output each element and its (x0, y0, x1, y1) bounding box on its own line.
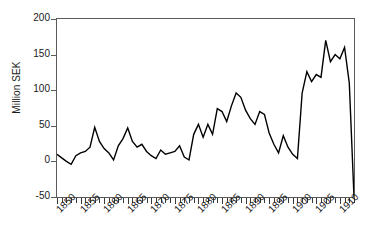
y-tick-label: 100 (0, 83, 50, 94)
chart-container: Million SEK 200150100500-50 185018551860… (0, 0, 372, 243)
y-tick-label: -50 (0, 190, 50, 201)
y-tick-label: 200 (0, 12, 50, 23)
y-tick-label: 0 (0, 154, 50, 165)
data-line-series (57, 19, 354, 197)
plot-area (56, 18, 355, 198)
y-tick-label: 50 (0, 119, 50, 130)
y-tick-label: 150 (0, 48, 50, 59)
